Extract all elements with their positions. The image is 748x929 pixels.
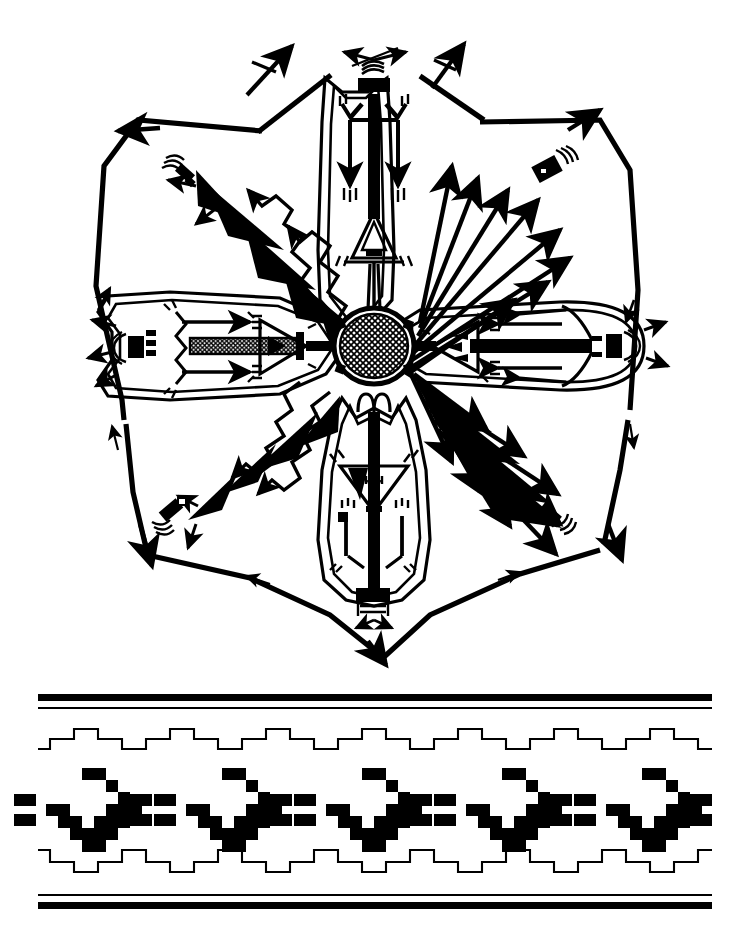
rug-top-rule-thick xyxy=(38,694,712,701)
navajo-rug-border-panel xyxy=(0,680,748,929)
navajo-sandpainting xyxy=(0,0,748,680)
center-hatched-circle xyxy=(334,308,414,384)
west-head-dot-b xyxy=(146,340,156,346)
north-skirt-band xyxy=(366,250,382,256)
page-canvas: Navajo sandpainting with four Yei figure… xyxy=(0,0,748,929)
border-arrow-w-top xyxy=(118,128,160,131)
south-skirt-band xyxy=(366,506,382,512)
east-head-dot-a xyxy=(592,336,602,341)
west-head-dot-a xyxy=(146,330,156,336)
east-head-dot-b xyxy=(592,352,602,357)
south-foot-block xyxy=(356,588,390,602)
center-circle-hatch xyxy=(340,314,408,378)
north-head xyxy=(358,78,390,92)
west-belt xyxy=(296,332,304,360)
bundle-dot-ne xyxy=(540,168,547,174)
south-arm-left-cap xyxy=(338,512,348,522)
bundle-tip-sw xyxy=(178,498,186,505)
north-body-torso xyxy=(368,94,380,219)
rug-top-rule-thin xyxy=(38,707,712,709)
east-body-torso xyxy=(470,339,592,353)
west-head xyxy=(128,336,144,358)
south-body-torso xyxy=(368,412,380,590)
rug-bottom-rule-thin xyxy=(38,894,712,896)
east-head xyxy=(606,334,622,358)
west-head-dot-c xyxy=(146,350,156,356)
rug-bottom-rule-thick xyxy=(38,902,712,909)
